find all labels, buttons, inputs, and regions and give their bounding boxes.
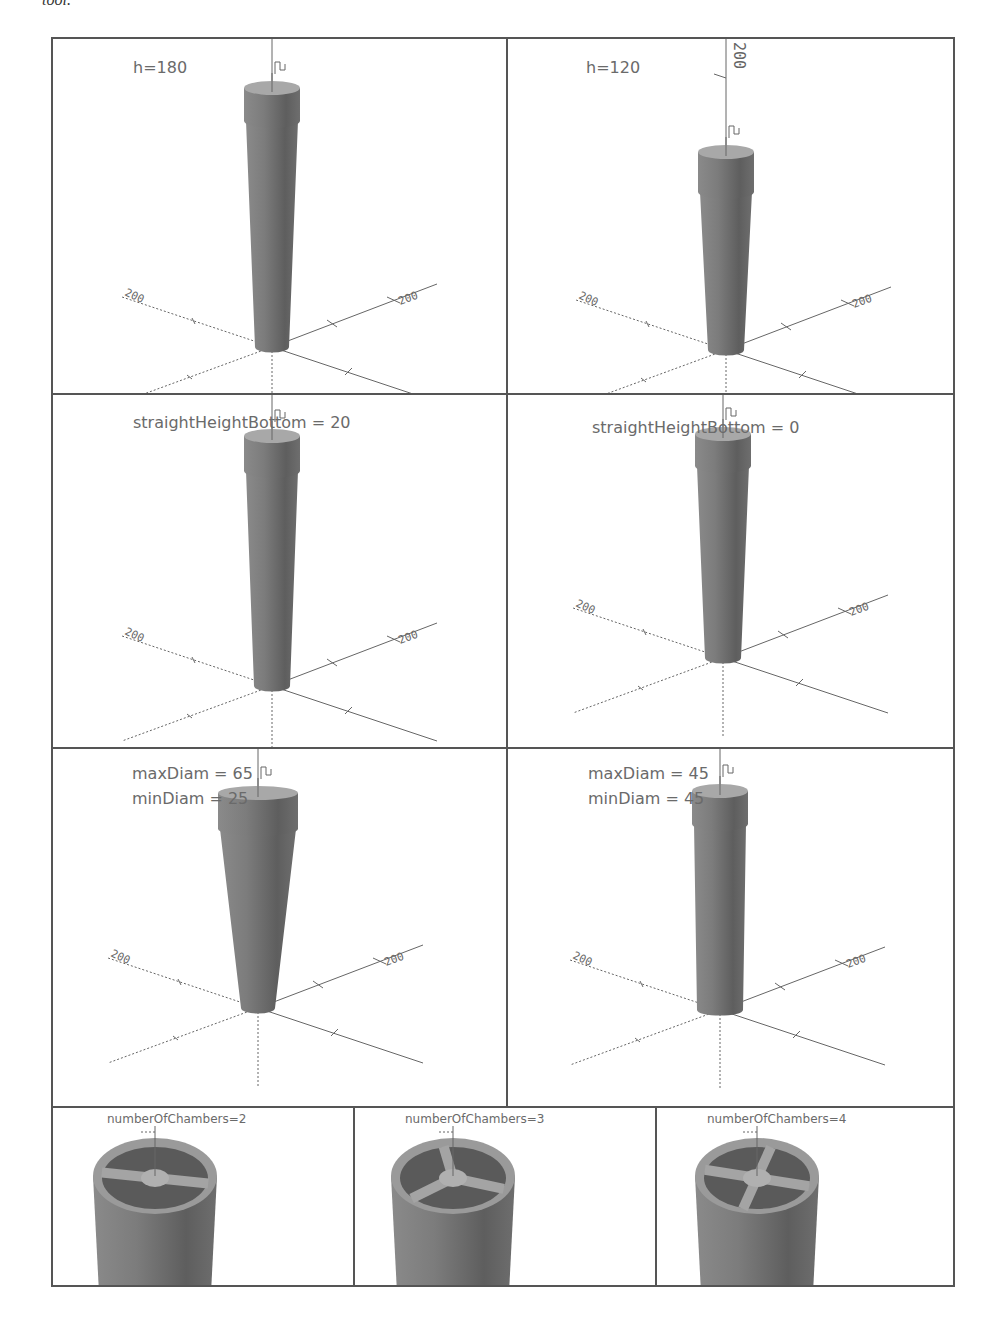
x-axis-negative (108, 958, 258, 1008)
x-axis-negative (576, 300, 726, 350)
y-axis-negative (108, 1008, 258, 1063)
tube-render: 200200 (53, 749, 506, 1106)
panel-label: h=180 (133, 55, 187, 80)
panel-straight-height-bottom-20: straightHeightBottom = 20 200200 (53, 393, 506, 747)
x-axis-tick-label: 200 (397, 289, 420, 308)
y-axis-line (720, 1010, 885, 1065)
panel-h180: h=180 200200 (53, 39, 506, 393)
panel-label-min: minDiam = 25 (132, 786, 248, 811)
z-axis-tick-glyph (729, 126, 739, 138)
panel-straight-height-bottom-0: straightHeightBottom = 0 200200 (506, 393, 953, 747)
panel-label-max: maxDiam = 65 (132, 761, 253, 786)
x-axis-negative (122, 636, 272, 686)
panel-label: h=120 (586, 55, 640, 80)
y-axis-tick-label: 200 (123, 625, 147, 645)
panel-chambers-4: numberOfChambers=4 (655, 1106, 953, 1285)
tube-render: 200200 (53, 39, 506, 393)
tube-model (695, 408, 751, 664)
tube-model (244, 410, 300, 692)
x-axis-tick-label: 200 (383, 950, 406, 969)
panel-label: straightHeightBottom = 0 (592, 415, 799, 440)
x-axis-negative (122, 297, 272, 347)
y-axis-negative (570, 1010, 720, 1065)
y-axis-tick-label: 200 (571, 949, 595, 969)
panel-chambers-2: numberOfChambers=2 (53, 1106, 353, 1285)
x-axis-tick-label: 200 (851, 292, 874, 311)
panel-diam-65-25: maxDiam = 65 minDiam = 25 200200 (53, 747, 506, 1106)
z-axis-tick-glyph (261, 767, 271, 779)
tube-model (244, 62, 300, 353)
panel-label-min: minDiam = 45 (588, 786, 704, 811)
y-axis-negative (573, 658, 723, 713)
y-axis-tick-label: 200 (574, 597, 598, 617)
z-axis-tick-glyph (723, 765, 733, 777)
y-axis-negative (122, 686, 272, 741)
x-axis-tick-label: 200 (845, 952, 868, 971)
x-axis-tick-label: 200 (397, 628, 420, 647)
panel-label: numberOfChambers=4 (707, 1111, 846, 1127)
tube-render: 200200 (508, 395, 953, 747)
panel-label-max: maxDiam = 45 (588, 761, 709, 786)
y-axis-tick-label: 200 (123, 286, 147, 306)
z-axis-tick-glyph (275, 62, 285, 74)
y-axis-tick-label: 200 (577, 289, 601, 309)
panel-chambers-3: numberOfChambers=3 (353, 1106, 655, 1285)
chamber-render (355, 1108, 655, 1285)
y-axis-tick-label: 200 (109, 947, 133, 967)
tube-render: 200200 (508, 749, 953, 1106)
y-axis-negative (576, 350, 726, 393)
chamber-model (93, 1126, 217, 1285)
figure-grid: h=180 200200 h=120 200200200 straightHei… (51, 37, 955, 1287)
panel-label: numberOfChambers=3 (405, 1111, 544, 1127)
tube-render: 200200 (53, 395, 506, 747)
chamber-render (53, 1108, 353, 1285)
panel-h120: h=120 200200200 (506, 39, 953, 393)
tube-render: 200200200 (508, 39, 953, 393)
y-axis-line (726, 350, 891, 393)
chamber-model (391, 1126, 515, 1285)
chamber-model (695, 1126, 819, 1285)
y-axis-line (272, 347, 437, 393)
page-text-fragment: tool. (42, 0, 71, 9)
x-axis-tick-label: 200 (848, 600, 871, 619)
x-axis-negative (573, 608, 723, 658)
panel-label: straightHeightBottom = 20 (133, 410, 351, 435)
panel-label: numberOfChambers=2 (107, 1111, 246, 1127)
panel-diam-45-45: maxDiam = 45 minDiam = 45 200200 (506, 747, 953, 1106)
z-axis-tick-label: 200 (730, 42, 748, 69)
chamber-render (657, 1108, 953, 1285)
y-axis-negative (122, 347, 272, 393)
y-axis-line (272, 686, 437, 741)
y-axis-line (258, 1008, 423, 1063)
y-axis-line (723, 658, 888, 713)
